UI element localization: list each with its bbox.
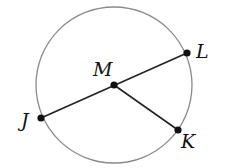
point-l xyxy=(183,49,190,56)
segment-mk xyxy=(114,85,178,130)
point-j xyxy=(37,114,44,121)
label-m: M xyxy=(92,58,113,80)
point-m xyxy=(110,81,117,88)
label-l: L xyxy=(195,40,209,62)
label-k: K xyxy=(180,130,197,152)
label-j: J xyxy=(17,109,30,131)
circle-diagram: M L J K xyxy=(0,0,225,168)
